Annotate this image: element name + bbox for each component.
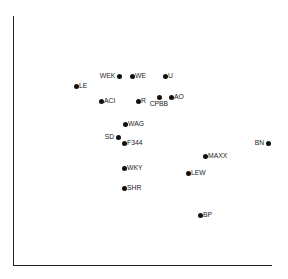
point-label: MAXX bbox=[208, 152, 227, 160]
data-point bbox=[186, 171, 191, 176]
point-label: R bbox=[141, 97, 146, 105]
data-point bbox=[122, 166, 127, 171]
point-label: SHR bbox=[127, 184, 141, 192]
data-point bbox=[122, 186, 127, 191]
data-point bbox=[74, 84, 79, 89]
point-label: LEW bbox=[191, 169, 206, 177]
point-label: U bbox=[168, 72, 173, 80]
data-point bbox=[266, 141, 271, 146]
data-point bbox=[99, 99, 104, 104]
data-point bbox=[130, 74, 135, 79]
data-point bbox=[136, 99, 141, 104]
point-label: SD bbox=[105, 133, 114, 141]
data-point bbox=[117, 74, 122, 79]
data-point bbox=[169, 95, 174, 100]
y-axis bbox=[13, 16, 14, 266]
point-label: BP bbox=[203, 211, 212, 219]
point-label: F344 bbox=[127, 139, 142, 147]
point-label: LE bbox=[79, 82, 87, 90]
point-label: WEK bbox=[100, 72, 115, 80]
point-label: AO bbox=[174, 93, 184, 101]
point-label: BN bbox=[255, 139, 264, 147]
data-point bbox=[203, 154, 208, 159]
data-point bbox=[116, 135, 121, 140]
x-axis bbox=[13, 265, 272, 266]
point-label: CPBB bbox=[150, 100, 169, 108]
point-label: WE bbox=[135, 72, 146, 80]
point-label: WAG bbox=[128, 120, 144, 128]
data-point bbox=[122, 141, 127, 146]
point-label: WKY bbox=[127, 164, 142, 172]
data-point bbox=[198, 213, 203, 218]
data-point bbox=[163, 74, 168, 79]
point-label: ACI bbox=[104, 97, 115, 105]
data-point bbox=[123, 122, 128, 127]
scatter-plot: LEWEKWEUACIRCPBBAOWAGSDF344WKYSHRBNMAXXL… bbox=[0, 0, 288, 279]
